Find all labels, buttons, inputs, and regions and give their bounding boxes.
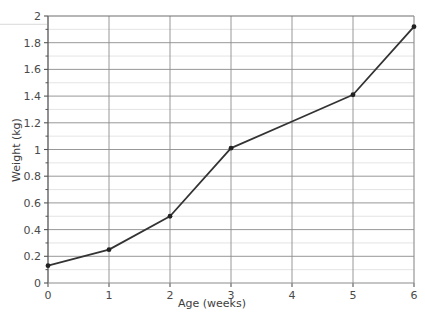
y-axis-tick-label: 0.2 [24, 250, 42, 263]
data-point-marker [107, 247, 112, 252]
x-axis-tick-label: 1 [106, 289, 113, 302]
data-point-marker [168, 214, 173, 219]
data-point-marker [46, 263, 51, 268]
data-point-marker [412, 24, 417, 29]
y-axis-tick-label: 1.8 [24, 37, 42, 50]
y-axis-tick-label: 1.4 [24, 90, 42, 103]
x-axis-tick-label: 5 [350, 289, 357, 302]
data-point-marker [351, 92, 356, 97]
x-axis-tick-label: 6 [411, 289, 418, 302]
line-chart: 00.20.40.60.811.21.41.61.82 0123456 Age … [0, 0, 425, 315]
x-axis-tick-label: 4 [289, 289, 296, 302]
x-axis-tick-label: 2 [167, 289, 174, 302]
data-point-marker [229, 146, 234, 151]
x-axis-title: Age (weeks) [178, 297, 246, 310]
y-axis-tick-label: 2 [34, 10, 41, 23]
y-axis-tick-label: 0 [34, 277, 41, 290]
y-axis-title: Weight (kg) [10, 118, 23, 182]
y-axis-tick-label: 0.4 [24, 224, 42, 237]
chart-background [0, 0, 425, 315]
y-axis-tick-label: 1 [34, 144, 41, 157]
x-axis-tick-label: 0 [45, 289, 52, 302]
chart-canvas: 00.20.40.60.811.21.41.61.82 0123456 Age … [0, 0, 425, 315]
y-axis-tick-label: 0.8 [24, 170, 42, 183]
y-axis-tick-label: 0.6 [24, 197, 42, 210]
y-axis-tick-label: 1.2 [24, 117, 42, 130]
y-axis-tick-label: 1.6 [24, 63, 42, 76]
